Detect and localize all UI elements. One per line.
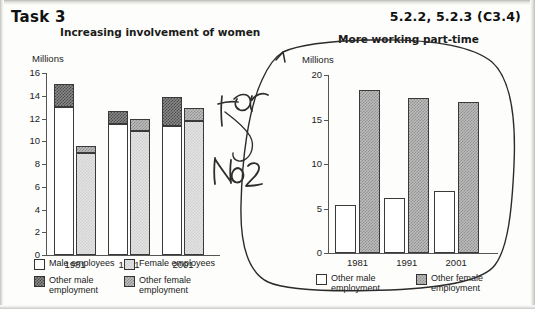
bar-left-2001-male-employees: [162, 126, 182, 255]
y-tick-right-2: [324, 164, 328, 165]
task-label: Task 3: [11, 8, 66, 26]
legend-label: Female employees: [139, 258, 215, 268]
legend-label: Other female employment: [139, 275, 191, 295]
y-tick-right-4: [324, 75, 328, 76]
chart-more-working-part-time: More working part-time Millions 05101520…: [288, 33, 526, 298]
y-tick-label-left-3: 6: [16, 181, 40, 192]
y-tick-left-3: [42, 187, 46, 188]
y-tick-left-2: [42, 210, 46, 211]
page-edge-left: [0, 0, 4, 309]
bar-left-1991-male-employees: [108, 124, 128, 255]
page-edge-top: [0, 0, 535, 5]
legend-item-left-female-employees: Female employees: [124, 258, 215, 270]
x-tick-label-right-2: 2001: [428, 257, 485, 268]
y-tick-left-0: [42, 255, 46, 256]
pen-arrowhead: [276, 52, 285, 62]
bar-right-1981-other-male-employment: [335, 205, 356, 253]
y-tick-label-left-4: 8: [16, 158, 40, 169]
bar-left-1981-other-male-employment: [54, 84, 74, 107]
y-tick-label-left-6: 12: [16, 113, 40, 124]
legend-item-right-other-male-employment: Other male employment: [316, 273, 380, 293]
y-tick-label-right-2: 10: [298, 158, 322, 169]
x-axis-left: [46, 255, 220, 256]
y-tick-label-left-2: 4: [16, 204, 40, 215]
legend-label: Other male employment: [331, 273, 380, 293]
y-tick-left-6: [42, 119, 46, 120]
y-tick-label-left-8: 16: [16, 67, 40, 78]
scanned-page: Task 3 5.2.2, 5.2.3 (C3.4) Increasing in…: [0, 0, 535, 309]
y-tick-left-4: [42, 164, 46, 165]
legend-swatch-icon: [34, 276, 45, 287]
page-edge-right: [530, 0, 535, 309]
bar-left-1991-other-male-employment: [108, 111, 128, 125]
bar-left-2001-female-employees: [184, 121, 204, 255]
x-axis-right: [328, 253, 498, 254]
bar-right-1991-other-male-employment: [384, 198, 405, 253]
y-tick-left-7: [42, 96, 46, 97]
legend-item-left-other-male-employment: Other male employment: [34, 275, 98, 295]
legend-swatch-icon: [124, 276, 135, 287]
legend-swatch-icon: [124, 259, 135, 270]
legend-swatch-icon: [316, 274, 327, 285]
y-axis-right: [328, 75, 329, 253]
y-tick-label-right-3: 15: [298, 114, 322, 125]
bar-right-2001-other-male-employment: [434, 191, 455, 253]
page-edge-bottom: [0, 305, 535, 309]
y-tick-label-right-4: 20: [298, 69, 322, 80]
bar-right-1981-other-female-employment: [359, 90, 380, 253]
legend-label: Other female employment: [431, 273, 483, 293]
y-tick-label-left-5: 10: [16, 135, 40, 146]
bar-right-1991-other-female-employment: [408, 98, 429, 253]
y-tick-left-5: [42, 141, 46, 142]
chart-title-right: More working part-time: [338, 33, 479, 45]
y-tick-label-right-0: 0: [298, 247, 322, 258]
bar-left-1991-female-employees: [130, 131, 150, 255]
bar-left-2001-other-male-employment: [162, 97, 182, 127]
bar-left-1981-other-female-employment: [76, 146, 96, 153]
y-axis-left: [46, 73, 47, 255]
y-tick-label-left-1: 2: [16, 226, 40, 237]
reference-code-label: 5.2.2, 5.2.3 (C3.4): [390, 9, 521, 24]
y-tick-right-1: [324, 209, 328, 210]
legend-item-left-other-female-employment: Other female employment: [124, 275, 191, 295]
bar-left-2001-other-female-employment: [184, 108, 204, 121]
legend-swatch-icon: [34, 259, 45, 270]
legend-swatch-icon: [416, 274, 427, 285]
y-axis-unit-right: Millions: [302, 54, 334, 65]
bar-left-1981-male-employees: [54, 107, 74, 255]
bar-left-1991-other-female-employment: [130, 119, 150, 132]
y-axis-unit-left: Millions: [32, 53, 64, 64]
y-tick-left-8: [42, 73, 46, 74]
y-tick-right-0: [324, 253, 328, 254]
legend-label: Male employees: [49, 258, 115, 268]
legend-label: Other male employment: [49, 275, 98, 295]
y-tick-right-3: [324, 120, 328, 121]
chart-title-left: Increasing involvement of women: [60, 26, 260, 38]
legend-item-left-male-employees: Male employees: [34, 258, 115, 270]
y-tick-label-right-1: 5: [298, 203, 322, 214]
y-tick-label-left-7: 14: [16, 90, 40, 101]
legend-item-right-other-female-employment: Other female employment: [416, 273, 483, 293]
y-tick-left-1: [42, 232, 46, 233]
bar-right-2001-other-female-employment: [458, 102, 479, 253]
chart-increasing-involvement-of-women: Increasing involvement of women Millions…: [8, 26, 244, 301]
bar-left-1981-female-employees: [76, 153, 96, 255]
